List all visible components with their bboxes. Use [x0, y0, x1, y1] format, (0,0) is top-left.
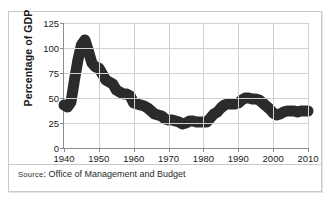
source-label: Source	[18, 170, 44, 179]
x-tick-mark	[238, 148, 239, 152]
y-tick-label: 125	[43, 18, 59, 29]
y-tick-label: 0	[54, 143, 59, 154]
gridline-vertical	[273, 23, 274, 148]
gridline-vertical	[134, 23, 135, 148]
gridline-vertical	[308, 23, 309, 148]
y-tick-label: 100	[43, 43, 59, 54]
x-tick-label: 1940	[53, 153, 74, 164]
x-tick-label: 1960	[123, 153, 144, 164]
x-tick-mark	[169, 148, 170, 152]
y-tick-label: 50	[48, 93, 59, 104]
y-axis-title: Percentage of GDP	[22, 2, 34, 114]
x-tick-label: 1980	[193, 153, 214, 164]
x-tick-label: 1950	[88, 153, 109, 164]
data-line-series	[64, 23, 308, 148]
x-tick-label: 1970	[158, 153, 179, 164]
y-tick-mark	[60, 48, 64, 49]
chart-area: Percentage of GDP 0255075100125194019501…	[9, 12, 321, 164]
gridline-vertical	[203, 23, 204, 148]
y-tick-label: 25	[48, 118, 59, 129]
x-tick-mark	[99, 148, 100, 152]
source-divider	[9, 164, 321, 165]
x-tick-label: 1990	[228, 153, 249, 164]
y-tick-label: 75	[48, 68, 59, 79]
gridline-vertical	[169, 23, 170, 148]
x-tick-label: 2000	[263, 153, 284, 164]
y-tick-mark	[60, 73, 64, 74]
plot-area: 0255075100125194019501960197019801990200…	[63, 23, 308, 149]
gridline-vertical	[238, 23, 239, 148]
gridline-horizontal	[64, 23, 308, 24]
y-tick-mark	[60, 123, 64, 124]
x-tick-mark	[134, 148, 135, 152]
y-tick-mark	[60, 98, 64, 99]
x-tick-mark	[64, 148, 65, 152]
source-text: Office of Management and Budget	[49, 169, 186, 179]
gridline-vertical	[99, 23, 100, 148]
x-tick-label: 2010	[297, 153, 318, 164]
gridline-horizontal	[64, 123, 308, 124]
y-tick-mark	[60, 23, 64, 24]
x-tick-mark	[273, 148, 274, 152]
x-tick-mark	[308, 148, 309, 152]
source-note: Source: Office of Management and Budget	[18, 169, 186, 179]
x-tick-mark	[203, 148, 204, 152]
gridline-horizontal	[64, 98, 308, 99]
gridline-horizontal	[64, 48, 308, 49]
chart-figure: Percentage of GDP 0255075100125194019501…	[8, 11, 322, 192]
gridline-horizontal	[64, 73, 308, 74]
